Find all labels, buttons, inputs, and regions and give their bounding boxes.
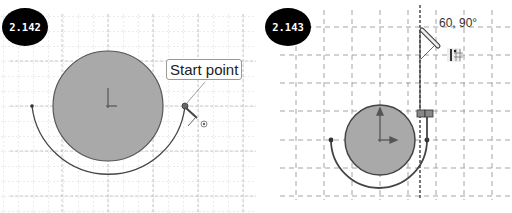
grid-snap-icon — [447, 48, 463, 62]
start-point-tooltip: Start point — [166, 59, 242, 80]
arc-end-point[interactable] — [329, 138, 334, 143]
arc-end-point[interactable] — [30, 104, 34, 108]
figure-badge: 2.143 — [265, 8, 311, 46]
angle-length-readout: 60, 90° — [439, 16, 477, 30]
vertical-relation-icon — [417, 110, 433, 117]
sketch-panel-left: 2.142 Start point — [0, 0, 256, 213]
sketch-panel-right: 2.143 60, 90° — [256, 0, 512, 213]
figure-badge: 2.142 — [2, 8, 48, 46]
